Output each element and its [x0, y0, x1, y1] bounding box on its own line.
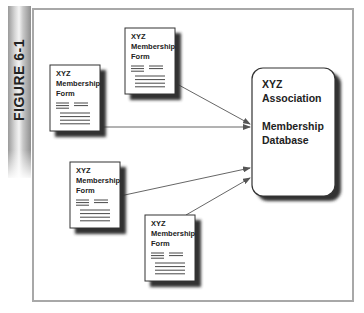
membership-database: XYZ Association Membership Database — [252, 68, 341, 201]
database-line-4: Membership — [262, 120, 324, 132]
membership-form-3: XYZMembershipForm — [70, 162, 126, 234]
database-line-1: XYZ — [262, 78, 283, 90]
membership-form-2: XYZMembershipForm — [125, 28, 181, 100]
form-title-line-2: Membership — [76, 176, 121, 185]
arrow-form-3-to-database — [120, 168, 250, 196]
database-line-2: Association — [262, 92, 322, 104]
form-title-line-2: Membership — [131, 42, 176, 51]
arrow-form-2-to-database — [177, 84, 250, 124]
form-title-line-1: XYZ — [56, 69, 71, 78]
membership-forms: XYZMembershipFormXYZMembershipFormXYZMem… — [50, 28, 201, 287]
form-title-line-3: Form — [76, 186, 95, 195]
form-title-line-2: Membership — [151, 229, 196, 238]
diagram-canvas: XYZ Association Membership Database XYZM… — [0, 0, 364, 313]
form-title-line-3: Form — [131, 52, 150, 61]
form-title-line-3: Form — [151, 239, 170, 248]
form-title-line-1: XYZ — [151, 219, 166, 228]
form-title-line-1: XYZ — [131, 32, 146, 41]
form-title-line-1: XYZ — [76, 166, 91, 175]
form-title-line-3: Form — [56, 89, 75, 98]
membership-form-1: XYZMembershipForm — [50, 65, 106, 137]
database-line-5: Database — [262, 134, 309, 146]
membership-form-4: XYZMembershipForm — [145, 215, 201, 287]
arrow-form-4-to-database — [186, 178, 250, 215]
form-title-line-2: Membership — [56, 79, 101, 88]
